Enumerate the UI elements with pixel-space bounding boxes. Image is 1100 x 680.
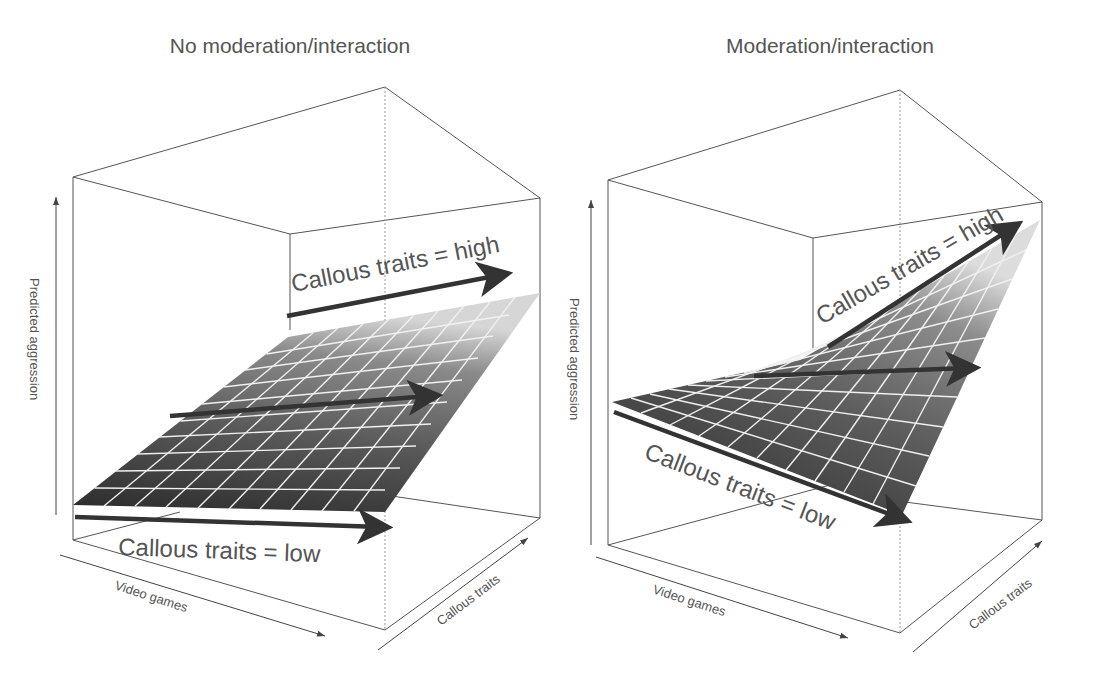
y-axis-arrow — [378, 538, 528, 650]
surface-plot-3d: Callous traits = high Callous traits = l… — [550, 0, 1100, 680]
annotation-high: Callous traits = high — [289, 230, 502, 297]
arrow-low — [75, 517, 380, 527]
x-axis-arrow — [60, 555, 325, 636]
panel-no-moderation: No moderation/interaction — [0, 0, 550, 680]
surface-plot-3d: Callous traits = high Callous traits = l… — [0, 0, 550, 680]
y-axis-label: Callous traits — [434, 571, 503, 628]
y-axis-label: Callous traits — [966, 575, 1035, 632]
regression-surface — [73, 293, 540, 512]
x-axis-arrow — [596, 557, 848, 638]
z-axis-label: Predicted aggression — [27, 278, 42, 400]
z-axis-label: Predicted aggression — [567, 298, 582, 420]
y-axis-arrow — [913, 541, 1042, 652]
panel-moderation: Moderation/interaction — [550, 0, 1100, 680]
